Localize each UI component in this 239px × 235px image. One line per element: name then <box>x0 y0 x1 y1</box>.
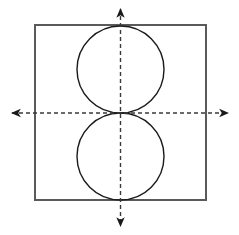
geometry-figure <box>0 0 239 235</box>
figure-container <box>0 0 239 235</box>
